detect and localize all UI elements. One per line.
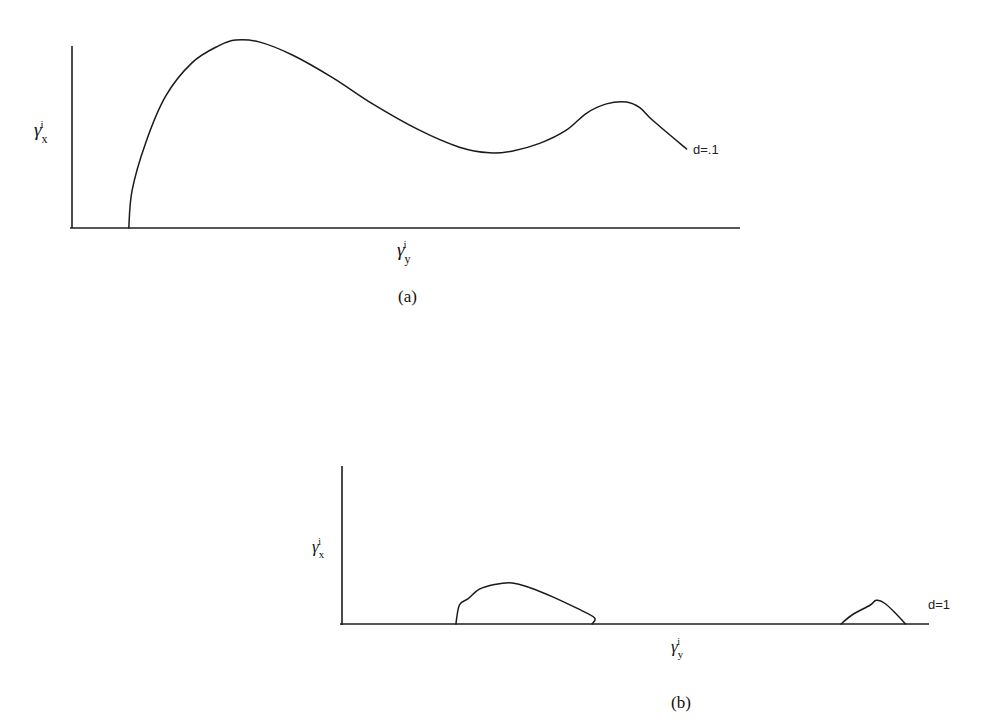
panel-a-series-label: d=.1 bbox=[693, 142, 719, 157]
panel-b-series-label: d=1 bbox=[928, 597, 950, 612]
panel-b-series bbox=[456, 583, 906, 624]
series-line-b-0-segment-0 bbox=[456, 583, 595, 624]
panel-a-y-axis-label: γxi bbox=[34, 118, 48, 146]
panel-a-x-axis-label: γyi bbox=[397, 238, 411, 266]
series-line-b-0-segment-1 bbox=[841, 600, 906, 624]
panel-b: γxi γyi d=1 (b) bbox=[312, 466, 950, 712]
figure: γxi γyi d=.1 (a) γxi γyi d=1 (b) bbox=[0, 0, 997, 724]
panel-a-caption: (a) bbox=[398, 287, 417, 306]
panel-a: γxi γyi d=.1 (a) bbox=[34, 40, 740, 306]
series-line-a-0 bbox=[129, 40, 687, 228]
panel-b-y-axis-label: γxi bbox=[312, 536, 325, 560]
panel-b-x-axis-label: γyi bbox=[671, 636, 684, 660]
panel-a-series bbox=[129, 40, 687, 228]
panel-b-caption: (b) bbox=[671, 693, 691, 712]
